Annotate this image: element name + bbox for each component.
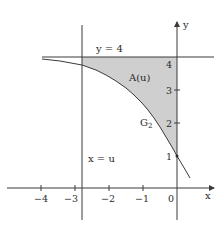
y-axis-label: y: [182, 19, 189, 30]
y-tick-label-2: 2: [166, 118, 172, 129]
y-tick-label-1: 1: [166, 151, 172, 162]
x-tick-label-neg4: −4: [34, 193, 48, 204]
y-tick-label-4: 4: [166, 59, 172, 70]
area-diagram: −4 −3 −2 −1 0 1 2 3 4 y x y = 4 x = u A(…: [0, 0, 224, 226]
label-y-equals-4: y = 4: [95, 43, 123, 54]
label-area-a-u: A(u): [128, 72, 151, 83]
x-tick-label-0: 0: [168, 193, 174, 204]
y-tick-label-3: 3: [166, 85, 172, 96]
x-tick-label-neg2: −2: [101, 193, 115, 204]
curve-name: G: [140, 117, 148, 128]
x-axis-label: x: [205, 190, 211, 201]
point-0-1: [176, 155, 179, 158]
label-x-equals-u: x = u: [88, 153, 115, 164]
x-tick-label-neg3: −3: [64, 193, 78, 204]
x-tick-label-neg1: −1: [135, 193, 149, 204]
curve-subscript: 2: [148, 122, 152, 130]
label-curve-g2: G2: [140, 117, 152, 130]
